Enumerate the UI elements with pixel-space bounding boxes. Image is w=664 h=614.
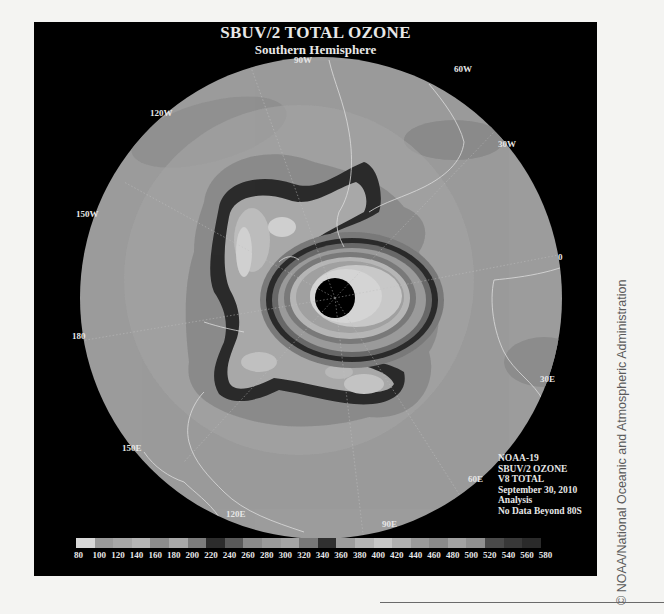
colorbar-tick: 420 — [390, 550, 409, 560]
lon-label-0: 0 — [558, 252, 563, 262]
colorbar-tick: 240 — [223, 550, 242, 560]
colorbar-tick: 300 — [279, 550, 298, 560]
info-product: SBUV/2 OZONE — [498, 464, 582, 475]
lon-label-150e: 150E — [122, 443, 142, 453]
lon-label-30e: 30E — [540, 374, 555, 384]
ozone-map-figure: SBUV/2 TOTAL OZONE Southern Hemisphere — [34, 22, 597, 576]
lon-label-30w: 30W — [498, 139, 516, 149]
colorbar-tick: 280 — [260, 550, 279, 560]
colorbar-tick: 360 — [334, 550, 353, 560]
info-note: No Data Beyond 80S — [498, 506, 582, 517]
divider-line — [380, 602, 664, 603]
colorbar-swatch — [262, 538, 281, 548]
colorbar-swatch — [448, 538, 467, 548]
lon-label-150w: 150W — [76, 209, 99, 219]
colorbar-swatch — [150, 538, 169, 548]
info-version: V8 TOTAL — [498, 474, 582, 485]
colorbar-tick: 80 — [74, 550, 93, 560]
colorbar-tick: 440 — [409, 550, 428, 560]
lon-label-180: 180 — [72, 331, 86, 341]
colorbar-tick: 220 — [204, 550, 223, 560]
colorbar — [76, 538, 541, 548]
colorbar-tick: 140 — [130, 550, 149, 560]
colorbar-tick: 200 — [186, 550, 205, 560]
colorbar-swatch — [281, 538, 300, 548]
colorbar-swatch — [355, 538, 374, 548]
image-credit: © NOAA/National Oceanic and Atmospheric … — [615, 280, 629, 605]
lon-label-120w: 120W — [150, 108, 173, 118]
colorbar-tick: 260 — [241, 550, 260, 560]
colorbar-swatch — [374, 538, 393, 548]
colorbar-swatch — [429, 538, 448, 548]
colorbar-swatch — [188, 538, 207, 548]
colorbar-swatch — [466, 538, 485, 548]
colorbar-swatch — [243, 538, 262, 548]
lon-label-90e: 90E — [382, 519, 397, 529]
colorbar-tick: 180 — [167, 550, 186, 560]
colorbar-swatch — [299, 538, 318, 548]
colorbar-tick: 520 — [483, 550, 502, 560]
colorbar-swatch — [95, 538, 114, 548]
colorbar-swatch — [76, 538, 95, 548]
colorbar-tick: 540 — [502, 550, 521, 560]
colorbar-swatch — [206, 538, 225, 548]
colorbar-tick: 120 — [111, 550, 130, 560]
colorbar-tick: 480 — [446, 550, 465, 560]
colorbar-swatch — [132, 538, 151, 548]
colorbar-tick: 560 — [520, 550, 539, 560]
colorbar-tick: 400 — [372, 550, 391, 560]
colorbar-tick: 320 — [297, 550, 316, 560]
info-date: September 30, 2010 — [498, 485, 582, 496]
colorbar-tick: 460 — [427, 550, 446, 560]
colorbar-swatch — [504, 538, 523, 548]
info-type: Analysis — [498, 495, 582, 506]
colorbar-tick: 380 — [353, 550, 372, 560]
colorbar-tick: 500 — [464, 550, 483, 560]
colorbar-tick: 580 — [539, 550, 558, 560]
colorbar-swatch — [522, 538, 541, 548]
colorbar-ticks: 8010012014016018020022024026028030032034… — [74, 550, 557, 560]
colorbar-tick: 100 — [93, 550, 112, 560]
colorbar-swatch — [336, 538, 355, 548]
lon-label-60w: 60W — [454, 64, 472, 74]
colorbar-tick: 340 — [316, 550, 335, 560]
colorbar-swatch — [318, 538, 337, 548]
colorbar-tick: 160 — [148, 550, 167, 560]
colorbar-swatch — [113, 538, 132, 548]
lon-label-90w: 90W — [294, 55, 312, 65]
info-satellite: NOAA-19 — [498, 453, 582, 464]
colorbar-swatch — [485, 538, 504, 548]
colorbar-swatch — [392, 538, 411, 548]
colorbar-swatch — [225, 538, 244, 548]
figure-info-block: NOAA-19 SBUV/2 OZONE V8 TOTAL September … — [498, 453, 582, 516]
lon-label-120e: 120E — [226, 509, 246, 519]
lon-label-60e: 60E — [468, 474, 483, 484]
colorbar-swatch — [169, 538, 188, 548]
colorbar-swatch — [411, 538, 430, 548]
